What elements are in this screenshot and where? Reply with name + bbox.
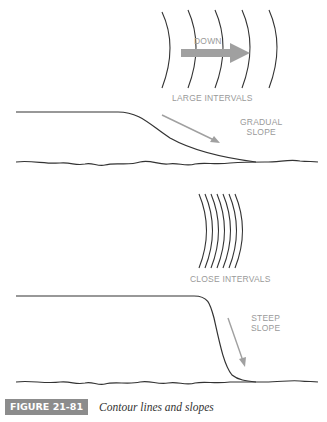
steep-label-line1: STEEP	[251, 313, 280, 323]
down-arrow-icon	[181, 43, 250, 63]
gradual-label-line1: GRADUAL	[240, 117, 283, 127]
contour-diagram	[0, 0, 327, 422]
figure-caption: FIGURE 21-81 Contour lines and slopes	[5, 399, 214, 415]
down-label: DOWN	[194, 36, 222, 46]
close-intervals-label: CLOSE INTERVALS	[190, 274, 271, 284]
figure-title: Contour lines and slopes	[99, 401, 214, 413]
steep-slope-label: STEEP SLOPE	[251, 313, 280, 333]
gradual-label-line2: SLOPE	[240, 127, 283, 137]
steep-slope-profile	[16, 296, 318, 384]
close-interval-contours	[199, 194, 243, 268]
steep-slope-arrow-icon	[228, 318, 246, 367]
figure-number-badge: FIGURE 21-81	[5, 399, 88, 415]
large-intervals-label: LARGE INTERVALS	[172, 93, 253, 103]
steep-label-line2: SLOPE	[251, 323, 280, 333]
gradual-slope-label: GRADUAL SLOPE	[240, 117, 283, 137]
